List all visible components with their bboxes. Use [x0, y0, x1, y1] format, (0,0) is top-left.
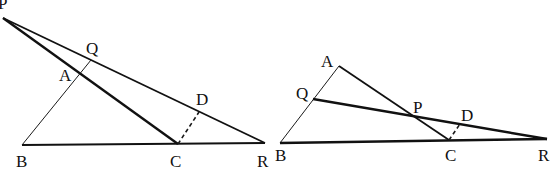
segment-QR: [313, 99, 547, 139]
segment-BR: [22, 143, 265, 145]
label-B: B: [16, 152, 27, 171]
label-D: D: [196, 90, 208, 109]
segment-PR: [3, 18, 265, 143]
label-B: B: [275, 146, 286, 165]
segment-BR: [280, 139, 547, 143]
label-A: A: [321, 52, 334, 71]
segment-BA: [280, 66, 339, 143]
segment-CD-dashed: [449, 124, 460, 140]
label-A: A: [59, 66, 72, 85]
label-Q: Q: [86, 39, 98, 58]
label-C: C: [445, 146, 456, 165]
label-C: C: [170, 152, 181, 171]
label-Q: Q: [296, 84, 308, 103]
label-D: D: [461, 106, 473, 125]
segment-AC: [339, 66, 449, 140]
segment-PC: [3, 18, 178, 144]
label-P: P: [0, 0, 7, 13]
geometry-diagram: P Q A B C D R A Q P D B C R: [0, 0, 557, 178]
segment-CD-dashed: [178, 112, 199, 144]
label-R: R: [538, 146, 550, 165]
label-P: P: [413, 98, 422, 117]
label-R: R: [257, 152, 269, 171]
left-figure: P Q A B C D R: [0, 0, 269, 171]
segment-BQ: [22, 60, 91, 145]
right-figure: A Q P D B C R: [275, 52, 550, 165]
